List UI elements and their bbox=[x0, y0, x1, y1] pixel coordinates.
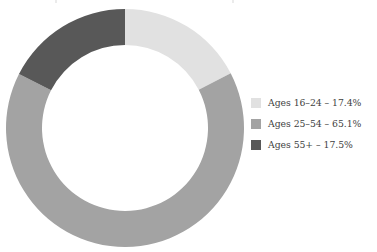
legend-item-ages-55-plus[interactable]: Ages 55+ – 17.5% bbox=[251, 134, 377, 155]
legend-swatch-ages-25-54 bbox=[251, 119, 261, 129]
legend-label-ages-25-54: Ages 25–54 – 65.1% bbox=[268, 119, 361, 128]
legend-item-ages-25-54[interactable]: Ages 25–54 – 65.1% bbox=[251, 113, 377, 134]
legend-swatch-ages-16-24 bbox=[251, 98, 261, 108]
legend-label-ages-16-24: Ages 16–24 – 17.4% bbox=[268, 98, 361, 107]
chart-legend: Ages 16–24 – 17.4% Ages 25–54 – 65.1% Ag… bbox=[251, 92, 377, 155]
donut-slice-3[interactable] bbox=[19, 9, 125, 90]
legend-swatch-ages-55-plus bbox=[251, 140, 261, 150]
legend-label-ages-55-plus: Ages 55+ – 17.5% bbox=[268, 140, 353, 149]
donut-slice-group bbox=[6, 9, 244, 247]
donut-chart-figure: Ages 16–24 – 17.4% Ages 25–54 – 65.1% Ag… bbox=[0, 0, 377, 252]
legend-item-ages-16-24[interactable]: Ages 16–24 – 17.4% bbox=[251, 92, 377, 113]
donut-slice-2[interactable] bbox=[6, 73, 244, 247]
donut-slice-1[interactable] bbox=[125, 9, 231, 90]
